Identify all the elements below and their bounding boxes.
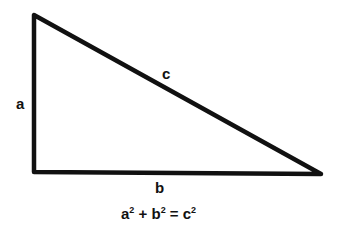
label-side-c: c [162,66,170,81]
label-side-a: a [16,96,24,111]
pythagorean-formula: a2 + b2 = c2 [121,205,196,222]
right-triangle [34,15,321,174]
label-side-b: b [155,180,164,195]
triangle-diagram [0,0,337,234]
